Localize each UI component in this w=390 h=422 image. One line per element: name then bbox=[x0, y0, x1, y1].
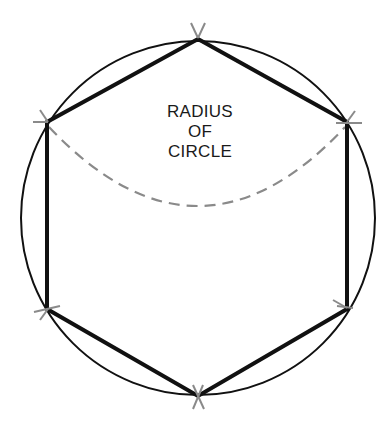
label-line-2: OF bbox=[150, 122, 250, 142]
circumscribed-circle bbox=[21, 41, 375, 395]
hexagon-construction-diagram: RADIUS OF CIRCLE bbox=[0, 0, 390, 422]
diagram-canvas bbox=[0, 0, 390, 422]
tick-upper-left bbox=[33, 110, 48, 122]
radius-of-circle-label: RADIUS OF CIRCLE bbox=[150, 102, 250, 162]
inscribed-hexagon bbox=[47, 39, 347, 396]
label-line-3: CIRCLE bbox=[150, 142, 250, 162]
tick-lower-right bbox=[333, 300, 353, 308]
tick-bottom bbox=[193, 385, 204, 409]
tick-top bbox=[191, 23, 205, 38]
label-line-1: RADIUS bbox=[150, 102, 250, 122]
